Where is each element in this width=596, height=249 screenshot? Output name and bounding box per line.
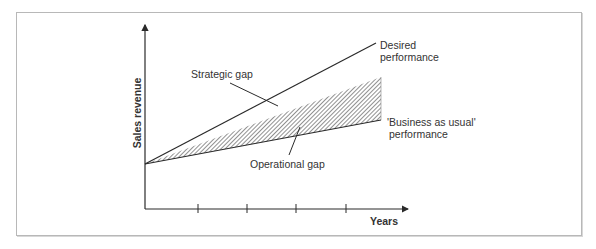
- strategic-gap-label: Strategic gap: [191, 68, 253, 80]
- strategic-gap-leader: [230, 83, 278, 106]
- operational-gap-label: Operational gap: [250, 158, 325, 170]
- operational-gap-region: [145, 77, 381, 164]
- gap-analysis-diagram: Strategic gap Operational gap Desired pe…: [0, 0, 596, 249]
- bau-label-line1: 'Business as usual': [387, 116, 476, 128]
- bau-label-line2: performance: [389, 128, 448, 140]
- y-axis-label: Sales revenue: [131, 78, 143, 149]
- desired-performance-label-line1: Desired: [380, 39, 416, 51]
- x-axis-label: Years: [370, 215, 398, 227]
- desired-performance-label-line2: performance: [380, 51, 439, 63]
